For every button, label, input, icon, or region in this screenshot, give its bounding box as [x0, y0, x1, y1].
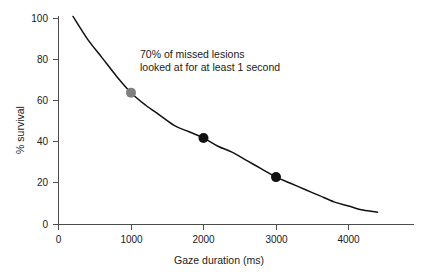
- data-point-marker-3000: [271, 172, 281, 182]
- x-tick-label-3000: 3000: [265, 234, 288, 245]
- y-tick-label-100: 100: [31, 13, 48, 24]
- y-tick-label-20: 20: [37, 177, 49, 188]
- x-tick-label-4000: 4000: [337, 234, 360, 245]
- survival-chart-figure: 100 80 60 40 20 0 0 1000 2000 3000 4000 …: [0, 0, 432, 278]
- y-tick-label-60: 60: [37, 95, 49, 106]
- data-point-markers: [126, 88, 281, 182]
- x-tick-label-0: 0: [56, 234, 62, 245]
- x-axis-title: Gaze duration (ms): [174, 254, 264, 266]
- annotation-line-2: looked at for at least 1 second: [140, 61, 280, 73]
- data-point-marker-2000: [199, 133, 209, 143]
- y-tick-label-0: 0: [42, 219, 48, 230]
- x-tick-label-1000: 1000: [120, 234, 143, 245]
- y-tick-label-80: 80: [37, 54, 49, 65]
- chart-canvas: 100 80 60 40 20 0 0 1000 2000 3000 4000 …: [0, 0, 432, 278]
- y-axis-title: % survival: [14, 106, 26, 154]
- x-tick-label-2000: 2000: [192, 234, 215, 245]
- survival-curve-line: [73, 16, 378, 212]
- y-tick-label-40: 40: [37, 136, 49, 147]
- data-point-marker-1000: [126, 88, 136, 98]
- annotation-line-1: 70% of missed lesions: [140, 48, 244, 60]
